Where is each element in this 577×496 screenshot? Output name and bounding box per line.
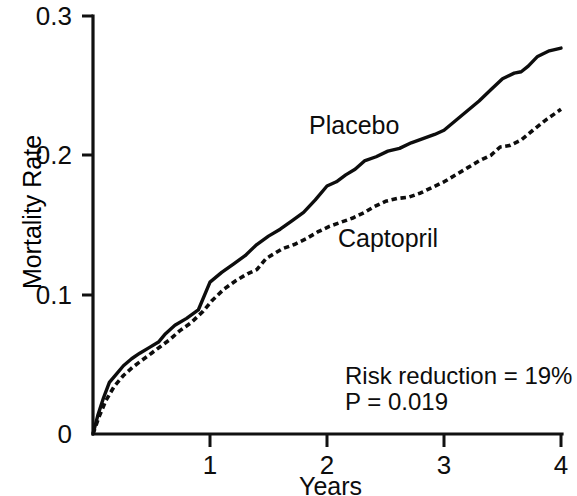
x-axis-tick-label-4: 4 [536,452,577,478]
y-axis-title: Mortality Rate [18,135,46,289]
captopril-curve-label: Captopril [338,226,438,251]
risk-reduction-annotation: Risk reduction = 19% [345,364,572,388]
p-value-annotation: P = 0.019 [345,390,448,414]
x-axis-title: Years [299,474,362,496]
y-axis-tick-label-0.3: 0.3 [22,3,72,29]
x-axis-tick-label-1: 1 [185,452,235,478]
y-axis-title-wrapper: Mortality Rate [18,132,50,292]
y-axis-tick-label-0: 0 [22,421,72,447]
placebo-curve-label: Placebo [309,113,399,138]
x-axis-tick-label-3: 3 [419,452,469,478]
